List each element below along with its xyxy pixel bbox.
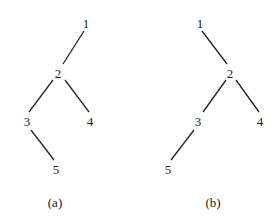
caption-b: (b): [205, 195, 220, 210]
node-a-3: 3: [24, 114, 31, 129]
edge-a-2-3: [29, 80, 53, 112]
node-a-2: 2: [55, 66, 62, 81]
node-a-4: 4: [87, 114, 94, 129]
node-b-2: 2: [227, 66, 234, 81]
edge-b-2-3: [203, 80, 226, 112]
edge-a-1-2: [63, 31, 84, 64]
edge-a-2-4: [65, 80, 89, 112]
tree-b: 1 2 3 4 5 (b): [165, 16, 264, 210]
caption-a: (a): [48, 195, 62, 210]
tree-a: 1 2 3 4 5 (a): [24, 16, 94, 210]
edge-b-2-4: [236, 80, 259, 112]
node-b-4: 4: [257, 114, 264, 129]
edge-b-3-5: [171, 130, 194, 160]
node-a-5: 5: [53, 162, 60, 177]
node-b-5: 5: [165, 162, 172, 177]
edge-b-1-2: [202, 31, 227, 64]
tree-diagram: 1 2 3 4 5 (a) 1 2 3 4 5 (b): [0, 0, 280, 221]
node-b-3: 3: [195, 114, 202, 129]
node-a-1: 1: [83, 16, 90, 31]
edge-a-3-5: [31, 130, 54, 160]
node-b-1: 1: [197, 16, 204, 31]
